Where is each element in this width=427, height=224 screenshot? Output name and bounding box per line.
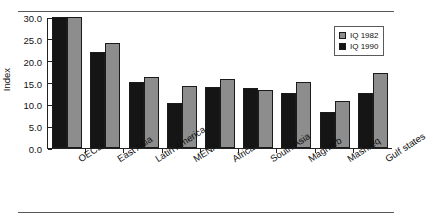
y-tick-label: 30.0 [24,13,49,24]
chart-legend: IQ 1982 IQ 1990 [334,26,384,56]
y-tick-label: 20.0 [24,56,49,67]
bar-group [48,18,86,148]
bar-iq-1982[interactable] [67,17,82,148]
bar-iq-1982[interactable] [220,79,235,148]
bar-iq-1990[interactable] [52,17,67,148]
bar-iq-1990[interactable] [205,87,220,148]
y-tick-label: 15.0 [24,78,49,89]
legend-label-iq-1982: IQ 1982 [350,31,378,40]
bar-group [201,18,239,148]
bottom-divider-rule [18,212,394,213]
legend-item-iq-1990: IQ 1990 [339,41,378,52]
legend-swatch-icon-iq-1982 [339,32,346,39]
bar-iq-1990[interactable] [90,52,105,148]
y-axis-title: Index [1,50,12,110]
bar-iq-1990[interactable] [243,88,258,148]
bar-group [86,18,124,148]
bar-iq-1982[interactable] [258,90,273,148]
y-tick-label: 5.0 [29,122,48,133]
bar-group [124,18,162,148]
legend-label-iq-1990: IQ 1990 [350,42,378,51]
legend-item-iq-1982: IQ 1982 [339,30,378,41]
legend-swatch-icon-iq-1990 [339,43,346,50]
y-tick-label: 10.0 [24,100,49,111]
bar-chart-figure: Index 0.05.010.015.020.025.030.0 OECDEas… [0,12,406,210]
x-axis-labels: OECDEast AsiaLatin AmericaMENAAfricaSout… [47,155,392,215]
y-tick-label: 0.0 [29,144,48,155]
y-tick-label: 25.0 [24,34,49,45]
bar-iq-1982[interactable] [105,43,120,148]
bar-group [239,18,277,148]
bar-group [277,18,315,148]
